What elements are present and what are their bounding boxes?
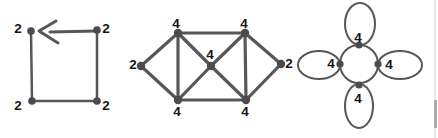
graph-vertex — [28, 97, 36, 105]
degree-label: 2 — [102, 98, 110, 113]
degree-label: 2 — [14, 21, 22, 36]
degree-label: 4 — [172, 16, 180, 31]
degree-label: 4 — [240, 16, 248, 31]
graph-vertex — [355, 81, 362, 88]
graph-edge — [141, 33, 178, 66]
degree-label: 4 — [173, 104, 181, 119]
graph-octahedron-like-graph: 2444442 — [129, 16, 293, 119]
degree-label: 2 — [285, 56, 293, 71]
degree-label: 4 — [385, 57, 393, 72]
graph-directed-square-cycle: 2222 — [14, 21, 110, 113]
graph-edge — [178, 66, 211, 100]
graph-edge — [141, 66, 178, 100]
figure-canvas: 222224444424444 — [0, 0, 438, 138]
graph-vertex — [93, 97, 101, 105]
graph-vertex — [277, 60, 285, 68]
degree-label: 4 — [206, 47, 214, 62]
degree-label: 4 — [354, 30, 362, 45]
graph-edge — [245, 33, 246, 100]
graph-vertex — [137, 62, 145, 70]
graph-edge — [245, 33, 281, 64]
graph-cycle-with-four-loops: 4444 — [298, 3, 422, 128]
degree-label: 2 — [102, 21, 110, 36]
graph-vertex — [93, 26, 101, 34]
degree-label: 4 — [354, 91, 362, 106]
graph-vertex — [336, 60, 343, 67]
graph-edge — [31, 31, 32, 101]
degree-label: 4 — [327, 56, 335, 71]
direction-arrow-shaft — [50, 31, 97, 32]
graphs-figure-svg: 222224444424444 — [0, 0, 438, 138]
degree-label: 4 — [241, 104, 249, 119]
graph-vertex — [27, 27, 35, 35]
cycle-circle-edge — [340, 45, 378, 83]
scan-edge-artifact — [434, 100, 437, 128]
graph-edge — [211, 33, 245, 66]
graph-vertex — [207, 62, 215, 70]
graph-vertex — [374, 60, 381, 67]
degree-label: 2 — [14, 98, 22, 113]
graph-edge — [211, 66, 246, 100]
graph-edge — [246, 64, 281, 100]
degree-label: 2 — [129, 57, 137, 72]
